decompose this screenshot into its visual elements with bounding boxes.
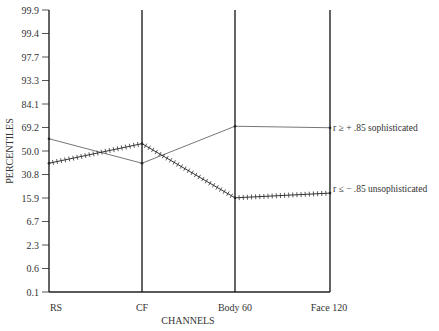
hatch-mark — [117, 146, 118, 151]
hatch-mark — [133, 143, 134, 148]
y-tick-label: 0.6 — [27, 263, 40, 274]
y-tick-label: 84.1 — [22, 99, 40, 110]
y-tick-label: 50.0 — [22, 146, 40, 157]
hatch-mark — [65, 157, 66, 162]
category-label: RS — [50, 302, 62, 313]
data-point — [48, 137, 51, 140]
data-point — [329, 126, 332, 129]
y-tick-label: 30.8 — [22, 169, 40, 180]
hatch-mark — [113, 147, 114, 152]
category-label: Body 60 — [218, 302, 252, 313]
legend-unsophisticated: r ≤ − .85 unsophisticated — [333, 184, 427, 194]
data-point — [141, 162, 144, 165]
hatch-mark — [57, 159, 58, 164]
data-point — [234, 125, 237, 128]
hatch-mark — [61, 158, 62, 163]
hatch-mark — [73, 156, 74, 161]
y-tick-label: 99.9 — [22, 5, 40, 16]
category-label: Face 120 — [311, 302, 347, 313]
hatch-mark — [129, 144, 130, 149]
hatch-mark — [137, 142, 138, 147]
y-tick-label: 99.4 — [22, 28, 40, 39]
legend-sophisticated: r ≥ + .85 sophisticated — [333, 123, 418, 133]
hatch-mark — [53, 160, 54, 165]
y-tick-label: 0.1 — [27, 287, 40, 298]
category-label: CF — [136, 302, 149, 313]
hatch-mark — [101, 150, 102, 155]
y-tick-label: 69.2 — [22, 122, 40, 133]
hatch-mark — [81, 154, 82, 159]
data-point — [141, 142, 144, 145]
hatch-mark — [121, 145, 122, 150]
y-tick-label: 93.3 — [22, 75, 40, 86]
x-axis-title: CHANNELS — [161, 315, 214, 326]
hatch-mark — [125, 145, 126, 150]
data-point — [329, 192, 332, 195]
y-axis-title: PERCENTILES — [4, 118, 15, 184]
hatch-mark — [69, 157, 70, 162]
hatch-mark — [77, 155, 78, 160]
series-sophisticated-line — [49, 126, 330, 163]
hatch-mark — [93, 151, 94, 156]
percentile-chart: 99.999.497.793.384.169.250.030.815.96.72… — [0, 0, 439, 331]
data-point — [234, 197, 237, 200]
series-unsophisticated-line — [49, 144, 330, 198]
hatch-mark — [109, 148, 110, 153]
y-tick-label: 2.3 — [27, 240, 40, 251]
hatch-mark — [85, 153, 86, 158]
hatch-mark — [105, 149, 106, 154]
hatch-mark — [89, 152, 90, 157]
y-tick-label: 6.7 — [27, 216, 40, 227]
y-tick-label: 97.7 — [22, 52, 40, 63]
data-point — [48, 162, 51, 165]
y-tick-label: 15.9 — [22, 193, 40, 204]
